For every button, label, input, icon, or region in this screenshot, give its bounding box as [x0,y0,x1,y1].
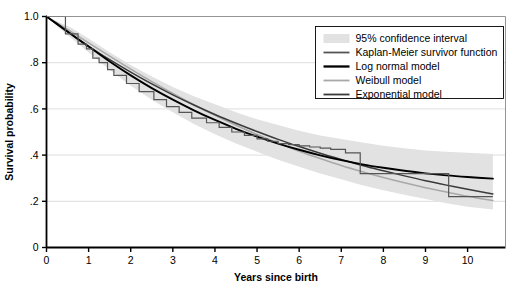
x-tick-label-9: 9 [423,254,429,266]
survival-plot: 0123456789100.2.4.6.81.0Years since birt… [0,0,523,292]
x-tick-label-4: 4 [212,254,218,266]
x-tick-label-6: 6 [296,254,302,266]
y-tick-label-3: .6 [30,103,39,115]
y-tick-label-5: 1.0 [24,10,39,22]
legend-label-1: Kaplan-Meier survivor function [356,46,498,58]
legend-swatch-band-0 [324,34,350,43]
y-tick-label-2: .4 [30,149,39,161]
y-axis-title: Survival probability [3,83,15,181]
legend-label-0: 95% confidence interval [356,32,468,44]
y-tick-label-0: 0 [33,241,39,253]
x-tick-label-5: 5 [254,254,260,266]
y-tick-label-4: .8 [30,56,39,68]
x-tick-label-7: 7 [338,254,344,266]
x-axis-title: Years since birth [234,271,318,283]
y-tick-label-1: .2 [30,195,39,207]
legend-label-3: Weibull model [356,74,422,86]
x-tick-label-3: 3 [170,254,176,266]
chart-figure: 0123456789100.2.4.6.81.0Years since birt… [0,0,523,292]
legend-label-2: Log normal model [356,60,440,72]
x-tick-label-2: 2 [128,254,134,266]
x-tick-label-0: 0 [44,254,50,266]
x-tick-label-1: 1 [86,254,92,266]
legend-label-4: Exponential model [356,88,442,100]
x-tick-label-10: 10 [462,254,474,266]
x-tick-label-8: 8 [380,254,386,266]
